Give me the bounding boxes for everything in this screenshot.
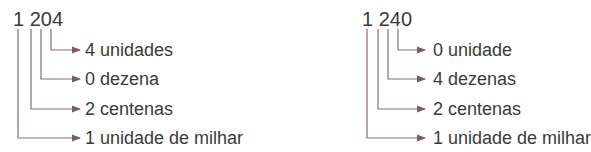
number-1204: 1 204: [13, 9, 63, 29]
label-tens: 4 dezenas: [433, 69, 516, 89]
number-1240: 1 240: [362, 9, 412, 29]
label-hundreds: 2 centenas: [85, 99, 173, 119]
label-thousands: 1 unidade de milhar: [433, 128, 591, 148]
label-units: 4 unidades: [85, 40, 173, 60]
label-units: 0 unidade: [433, 40, 512, 60]
label-thousands: 1 unidade de milhar: [85, 128, 243, 148]
label-tens: 0 dezena: [85, 69, 159, 89]
label-hundreds: 2 centenas: [433, 99, 521, 119]
